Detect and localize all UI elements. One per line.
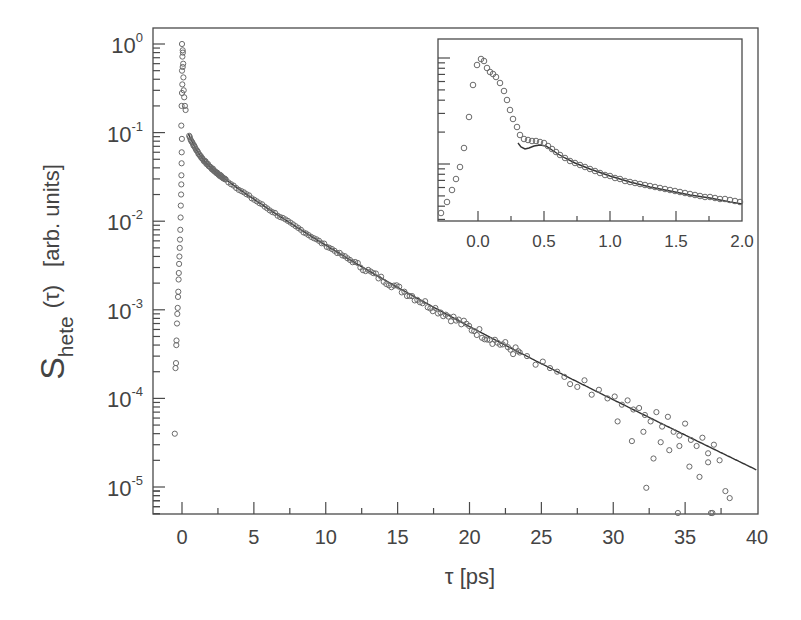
inset-data-point xyxy=(497,80,503,86)
data-point xyxy=(173,366,178,371)
y-tick-label: 10-4 xyxy=(107,384,143,412)
data-point xyxy=(700,435,705,440)
data-point xyxy=(175,305,180,310)
data-point xyxy=(687,464,692,469)
y-tick-label: 100 xyxy=(111,30,143,58)
data-point xyxy=(637,405,642,410)
data-point xyxy=(173,361,178,366)
inset-data-point xyxy=(507,107,513,113)
data-point xyxy=(625,398,630,403)
data-point xyxy=(179,173,184,178)
x-tick-label: 30 xyxy=(602,526,624,548)
data-point xyxy=(510,352,515,357)
data-point xyxy=(641,429,646,434)
inset-data-point xyxy=(537,139,543,145)
x-tick-label: 35 xyxy=(674,526,696,548)
data-point xyxy=(174,321,179,326)
x-axis-label: τ [ps] xyxy=(445,564,495,589)
data-point xyxy=(178,203,183,208)
x-tick-label: 20 xyxy=(458,526,480,548)
main-y-axis: 10010-110-210-310-410-5 xyxy=(107,30,165,514)
data-point xyxy=(181,75,186,80)
data-point xyxy=(182,95,187,100)
data-point xyxy=(612,394,617,399)
inset-x-tick-label: 1.5 xyxy=(664,232,688,251)
data-point xyxy=(533,362,538,367)
main-fit-line xyxy=(189,134,757,470)
data-point xyxy=(176,270,181,275)
inset-data-point xyxy=(501,88,507,94)
data-point xyxy=(178,227,183,232)
svg-text:Shete(τ)[arb. units]: Shete(τ)[arb. units] xyxy=(33,164,77,380)
y-tick-label: 10-3 xyxy=(107,296,143,324)
data-point xyxy=(179,182,184,187)
inset-data-point xyxy=(466,114,472,120)
data-point xyxy=(667,448,672,453)
data-point xyxy=(648,419,653,424)
y-axis-label-symbol: S xyxy=(33,357,71,380)
data-point xyxy=(675,510,680,515)
data-point xyxy=(651,456,656,461)
data-point xyxy=(717,458,722,463)
inset-plot-area: 0.00.51.01.52.0 xyxy=(438,39,754,251)
data-point xyxy=(697,474,702,479)
x-tick-label: 5 xyxy=(248,526,259,548)
data-point xyxy=(575,384,580,389)
data-point xyxy=(654,410,659,415)
y-axis-label: Shete(τ)[arb. units] xyxy=(33,164,77,380)
inset-data-point xyxy=(457,164,463,170)
inset-data-point xyxy=(514,124,520,130)
data-point xyxy=(177,261,182,266)
main-plot-frame xyxy=(153,28,758,514)
data-point xyxy=(176,289,181,294)
x-tick-label: 25 xyxy=(530,526,552,548)
data-point xyxy=(677,433,682,438)
data-point xyxy=(177,237,182,242)
y-axis-label-arg: (τ) xyxy=(39,285,64,308)
inset-data-point xyxy=(533,138,539,144)
inset-data-point xyxy=(438,210,444,216)
data-point xyxy=(179,150,184,155)
data-point xyxy=(181,61,186,66)
inset-data-point xyxy=(510,116,516,122)
chart: 10010-110-210-310-410-5 0510152025303540… xyxy=(0,0,801,620)
data-point xyxy=(658,440,663,445)
data-point xyxy=(727,496,732,501)
inset-x-tick-label: 1.0 xyxy=(598,232,622,251)
data-point xyxy=(179,192,184,197)
data-point xyxy=(540,359,545,364)
data-point xyxy=(589,392,594,397)
data-point xyxy=(175,311,180,316)
inset-data-point xyxy=(504,97,510,103)
inset-data-point xyxy=(453,176,459,182)
y-axis-label-subscript: hete xyxy=(54,316,77,357)
inset-axes: 0.00.51.01.52.0 xyxy=(438,58,754,251)
inset-x-tick-label: 0.5 xyxy=(532,232,556,251)
data-point xyxy=(474,332,479,337)
data-point xyxy=(568,382,573,387)
y-tick-label: 10-2 xyxy=(107,207,143,235)
data-point xyxy=(629,439,634,444)
inset-data-point xyxy=(474,62,480,68)
inset-data-point xyxy=(470,82,476,88)
inset-data-point xyxy=(444,199,450,205)
data-point xyxy=(179,136,184,141)
data-point xyxy=(180,82,185,87)
x-tick-label: 15 xyxy=(387,526,409,548)
data-point xyxy=(176,277,181,282)
data-point xyxy=(660,424,665,429)
data-point xyxy=(706,451,711,456)
main-x-axis: 0510152025303540 xyxy=(176,502,768,548)
y-tick-label: 10-5 xyxy=(107,473,143,501)
x-tick-label: 0 xyxy=(176,526,187,548)
inset-x-tick-label: 2.0 xyxy=(730,232,754,251)
inset-data-point xyxy=(461,145,467,151)
main-data-points xyxy=(172,41,732,515)
data-point xyxy=(177,254,182,259)
data-point xyxy=(179,41,184,46)
data-point xyxy=(711,442,716,447)
inset-data-point xyxy=(521,136,527,142)
data-point xyxy=(177,245,182,250)
inset-data-point xyxy=(525,137,531,143)
data-point xyxy=(179,161,184,166)
